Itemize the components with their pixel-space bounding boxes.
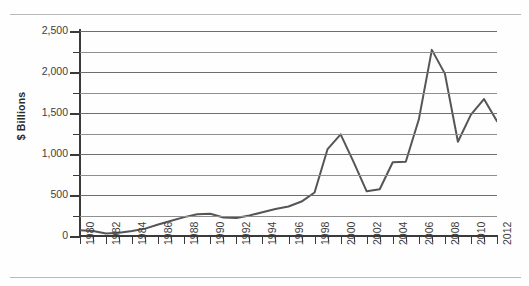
y-tick-major bbox=[70, 236, 79, 238]
y-tick-major bbox=[70, 154, 79, 156]
y-tick-minor bbox=[73, 93, 79, 94]
y-tick-major bbox=[70, 31, 79, 33]
x-tick-label: 1992 bbox=[241, 222, 252, 245]
y-tick-major bbox=[70, 72, 79, 74]
x-tick-label: 1986 bbox=[163, 222, 174, 245]
x-tick-label: 2008 bbox=[450, 222, 461, 245]
x-tick-label: 2010 bbox=[476, 222, 487, 245]
x-axis-labels: 1980198219841986198819901992199419961998… bbox=[0, 0, 529, 286]
x-tick-label: 1980 bbox=[85, 222, 96, 245]
y-tick-major bbox=[70, 195, 79, 197]
y-tick-minor bbox=[73, 134, 79, 135]
x-tick-label: 2000 bbox=[346, 222, 357, 245]
x-tick-label: 1990 bbox=[215, 222, 226, 245]
x-tick-label: 1982 bbox=[111, 222, 122, 245]
x-tick-label: 2002 bbox=[372, 222, 383, 245]
x-tick-label: 2004 bbox=[398, 222, 409, 245]
y-tick-minor bbox=[73, 175, 79, 176]
x-tick-label: 1998 bbox=[320, 222, 331, 245]
chart-figure: $ Billions 05001,0001,5002,0002,500 1980… bbox=[0, 0, 529, 286]
y-tick-minor bbox=[73, 216, 79, 217]
x-tick-label: 1996 bbox=[294, 222, 305, 245]
x-tick-label: 1988 bbox=[189, 222, 200, 245]
y-tick-major bbox=[70, 113, 79, 115]
x-tick-label: 2012 bbox=[502, 222, 513, 245]
x-tick-label: 2006 bbox=[424, 222, 435, 245]
y-tick-minor bbox=[73, 52, 79, 53]
x-tick-label: 1984 bbox=[137, 222, 148, 245]
x-tick-label: 1994 bbox=[267, 222, 278, 245]
